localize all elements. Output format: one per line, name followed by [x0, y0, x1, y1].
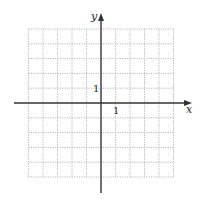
coordinate-plane: y x 1 1 [0, 0, 200, 199]
x-axis [14, 100, 192, 106]
x-axis-label: x [186, 103, 193, 116]
y-axis-arrow-icon [98, 13, 104, 21]
y-tick-label: 1 [93, 83, 99, 94]
x-tick-label: 1 [113, 105, 119, 116]
y-axis-label: y [90, 10, 98, 23]
